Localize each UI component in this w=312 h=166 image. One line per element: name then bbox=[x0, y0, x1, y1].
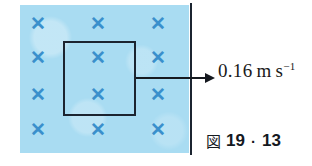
field-cross-icon: ✕ bbox=[29, 121, 47, 139]
arrow-head bbox=[205, 73, 215, 83]
caption-separator: · bbox=[250, 133, 257, 150]
velocity-label: 0.16ms−1 bbox=[218, 60, 296, 82]
field-cross-icon: ✕ bbox=[29, 86, 47, 104]
velocity-unit-metre: m bbox=[256, 60, 271, 81]
conducting-loop-outline bbox=[63, 41, 136, 116]
arrow-shaft bbox=[136, 77, 207, 79]
velocity-unit-exponent: −1 bbox=[283, 60, 295, 72]
field-cross-icon: ✕ bbox=[149, 121, 167, 139]
field-cross-icon: ✕ bbox=[149, 15, 167, 33]
velocity-arrow-icon bbox=[136, 74, 215, 84]
zu-symbol-icon: 図 bbox=[206, 134, 221, 149]
caption-chapter: 19 bbox=[226, 131, 245, 151]
figure-diagram: ✕ ✕ ✕ ✕ ✕ ✕ ✕ ✕ ✕ ✕ ✕ ✕ 0.16ms−1 図 19 · … bbox=[0, 0, 312, 166]
field-cross-icon: ✕ bbox=[29, 15, 47, 33]
caption-number: 13 bbox=[262, 131, 281, 151]
field-cross-icon: ✕ bbox=[29, 49, 47, 67]
field-cross-icon: ✕ bbox=[89, 121, 107, 139]
figure-caption: 図 19 · 13 bbox=[206, 131, 281, 151]
field-cross-icon: ✕ bbox=[89, 15, 107, 33]
field-cross-icon: ✕ bbox=[149, 49, 167, 67]
velocity-value: 0.16 bbox=[218, 60, 252, 81]
field-cross-icon: ✕ bbox=[149, 86, 167, 104]
